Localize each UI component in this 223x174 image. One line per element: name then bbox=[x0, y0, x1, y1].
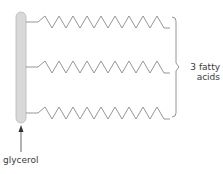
fatty-acid-chain-1 bbox=[26, 16, 170, 28]
fatty-acid-chain-2 bbox=[26, 61, 170, 73]
fatty-acids-label-line1: 3 fatty bbox=[182, 62, 220, 72]
fatty-acid-chain-3 bbox=[26, 107, 170, 119]
glycerol-label: glycerol bbox=[3, 155, 39, 165]
triglyceride-diagram bbox=[0, 0, 223, 174]
fatty-acids-label: 3 fatty acids bbox=[182, 62, 220, 82]
glycerol-arrow bbox=[19, 125, 24, 152]
glycerol-backbone bbox=[16, 12, 26, 123]
fatty-acids-bracket bbox=[172, 17, 179, 117]
fatty-acids-label-line2: acids bbox=[182, 72, 220, 82]
